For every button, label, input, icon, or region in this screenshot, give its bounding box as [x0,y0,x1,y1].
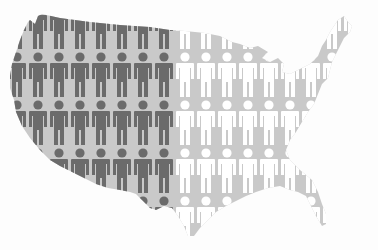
person-icon-dark [50,196,68,241]
person-icon-light [302,4,320,49]
person-icon-dark [92,196,110,241]
person-icon-light [344,4,362,49]
pictogram-map [0,0,378,250]
person-icon-light [323,148,341,193]
person-icon-light [344,148,362,193]
person-icon-dark [29,148,47,193]
person-icon-light [344,196,362,241]
person-icon-light [323,196,341,241]
person-icon-dark [8,148,26,193]
person-icon-light [344,52,362,97]
person-icon-light [239,196,257,241]
map-fill [0,0,378,250]
person-icon-dark [113,196,131,241]
person-icon-light [239,4,257,49]
person-icon-light [344,100,362,145]
person-icon-light [281,196,299,241]
person-icon-light [260,196,278,241]
person-icon-dark [8,196,26,241]
person-icon-dark [71,196,89,241]
person-icon-light [260,4,278,49]
us-map-illustration [0,0,378,250]
person-icon-light [281,4,299,49]
person-icon-dark [29,196,47,241]
person-icon-light [323,100,341,145]
